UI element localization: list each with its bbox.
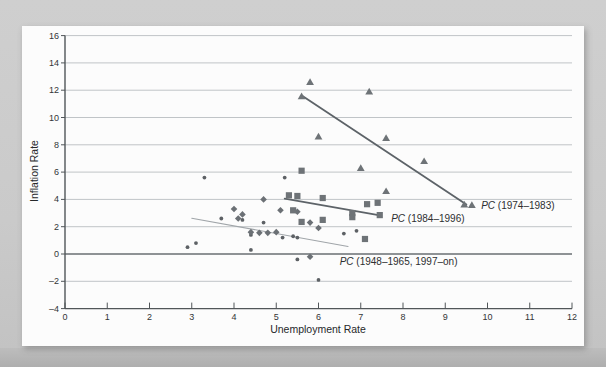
y-tick-label: 6 [54,167,59,177]
y-tick-label: 8 [54,140,59,150]
diamond-marker [239,211,246,218]
square-marker [294,193,300,199]
y-tick-label: 16 [49,31,59,41]
diamond-marker [277,207,284,214]
diamond-marker [260,196,267,203]
y-tick-label: 14 [49,58,59,68]
x-tick-label: 7 [358,312,363,322]
triangle-marker [382,134,390,141]
x-axis-title: Unemployment Rate [270,323,366,335]
dot-marker [281,236,285,240]
square-marker [320,217,326,223]
dot-marker [295,236,299,240]
x-tick-label: 9 [443,312,448,322]
x-tick-label: 6 [316,312,321,322]
diamond-marker [265,230,272,237]
y-tick-label: 0 [54,249,59,259]
x-tick-label: 2 [147,312,152,322]
pc-trend-line [303,96,467,204]
square-marker [299,219,305,225]
page-background: 0123456789101112–4–20246810121416PC (197… [0,0,606,367]
triangle-marker [298,93,306,100]
pc-line-label: PC (1974–1983) [481,200,554,211]
phillips-curve-chart: 0123456789101112–4–20246810121416PC (197… [0,0,606,367]
pc-line-label: PC (1984–1996) [391,213,464,224]
dot-marker [317,278,321,282]
y-tick-label: –2 [49,276,59,286]
y-tick-label: –4 [49,304,59,314]
x-tick-label: 4 [231,312,236,322]
x-tick-label: 5 [274,312,279,322]
triangle-marker [420,157,428,164]
diamond-marker [231,206,238,213]
square-marker [290,207,296,213]
square-marker [377,212,383,218]
triangle-marker [382,187,390,194]
y-tick-label: 12 [49,85,59,95]
dot-marker [249,248,253,252]
square-marker [320,195,326,201]
y-axis-title: Inflation Rate [28,140,40,202]
x-tick-label: 1 [105,312,110,322]
dot-marker [342,232,346,236]
diamond-marker [307,219,314,226]
dot-marker [355,229,359,233]
triangle-marker [315,133,323,140]
triangle-marker [357,164,365,171]
square-marker [362,236,368,242]
dot-marker [203,176,207,180]
y-tick-label: 4 [54,194,59,204]
dot-marker [291,234,295,238]
dot-marker [219,217,223,221]
triangle-marker [468,201,476,208]
dot-marker [262,221,266,225]
square-marker [364,201,370,207]
x-tick-label: 12 [567,312,577,322]
diamond-marker [315,225,322,232]
dot-marker [295,258,299,262]
diamond-marker [235,215,242,222]
dot-marker [186,245,190,249]
square-marker [375,200,381,206]
square-marker [286,192,292,198]
x-tick-label: 3 [189,312,194,322]
x-tick-label: 8 [400,312,405,322]
dot-marker [283,176,287,180]
x-tick-label: 0 [62,312,67,322]
chart-card: 0123456789101112–4–20246810121416PC (197… [22,26,584,346]
dot-marker [194,241,198,245]
triangle-marker [306,78,314,85]
y-tick-label: 2 [54,222,59,232]
x-tick-label: 11 [525,312,534,322]
y-tick-label: 10 [49,113,59,123]
plot-area: 0123456789101112–4–20246810121416PC (197… [49,31,577,323]
pc-line-label: PC (1948–1965, 1997–on) [340,256,458,267]
triangle-marker [365,88,373,95]
x-tick-label: 10 [482,312,492,322]
square-marker [299,168,305,174]
square-marker [349,214,355,220]
